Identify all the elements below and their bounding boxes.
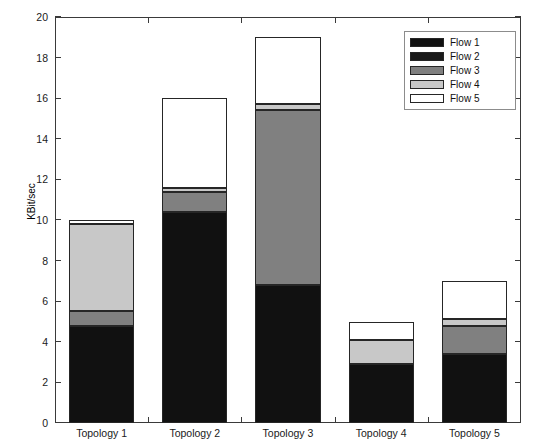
x-axis-tick-mark — [148, 417, 149, 423]
chart-legend: Flow 1Flow 2Flow 3Flow 4Flow 5 — [404, 31, 516, 110]
legend-swatch-icon — [410, 52, 444, 61]
y-axis-tick-mark-right — [515, 260, 521, 261]
y-axis-tick-mark — [55, 138, 61, 139]
legend-swatch-icon — [410, 80, 444, 89]
x-axis-tick-mark-top — [148, 17, 149, 23]
x-axis-tick-mark-top — [241, 17, 242, 23]
y-axis-tick-label: 6 — [18, 296, 48, 307]
y-axis-tick-mark-right — [515, 341, 521, 342]
bar-segment-flow-5[interactable] — [255, 37, 320, 104]
bar-segment-flow-3[interactable] — [255, 110, 320, 285]
legend-entry: Flow 2 — [410, 50, 510, 63]
y-axis-tick-mark — [55, 179, 61, 180]
x-axis-tick-mark-top — [335, 17, 336, 23]
x-axis-tick-mark-top — [428, 17, 429, 23]
y-axis-tick-mark-right — [515, 16, 521, 17]
legend-entry: Flow 4 — [410, 78, 510, 91]
x-axis-category-label: Topology 3 — [238, 428, 338, 439]
stacked-bar[interactable] — [162, 17, 227, 423]
y-axis-tick-label: 16 — [18, 93, 48, 104]
y-axis-tick-mark — [55, 382, 61, 383]
x-axis-category-label: Topology 2 — [145, 428, 245, 439]
y-axis-tick-mark — [55, 422, 61, 423]
y-axis-tick-label: 8 — [18, 256, 48, 267]
x-axis-category-label: Topology 1 — [52, 428, 152, 439]
bar-segment-flow-5[interactable] — [442, 281, 507, 320]
legend-label: Flow 2 — [450, 52, 479, 62]
y-axis-tick-mark — [55, 16, 61, 17]
y-axis-tick-mark-right — [515, 179, 521, 180]
legend-entry: Flow 5 — [410, 92, 510, 105]
bar-segment-flow-3[interactable] — [69, 311, 134, 325]
y-axis-tick-mark-right — [515, 138, 521, 139]
y-axis-tick-mark — [55, 341, 61, 342]
chart-figure: KBit/sec 02468101214161820 Topology 1Top… — [0, 0, 535, 443]
bar-segment-flow-5[interactable] — [349, 322, 414, 340]
stacked-bar[interactable] — [255, 17, 320, 423]
y-axis-tick-mark — [55, 301, 61, 302]
y-axis-tick-label: 4 — [18, 337, 48, 348]
x-axis-tick-mark — [335, 417, 336, 423]
y-axis-tick-label: 18 — [18, 53, 48, 64]
legend-swatch-icon — [410, 38, 444, 47]
y-axis-tick-mark-right — [515, 219, 521, 220]
x-axis-category-label: Topology 4 — [331, 428, 431, 439]
legend-label: Flow 3 — [450, 66, 479, 76]
x-axis-category-label: Topology 5 — [424, 428, 524, 439]
bar-segment-flow-3[interactable] — [162, 192, 227, 212]
bar-segment-flow-1[interactable] — [442, 354, 507, 423]
y-axis-tick-mark — [55, 98, 61, 99]
legend-entry: Flow 3 — [410, 64, 510, 77]
y-axis-tick-mark-right — [515, 301, 521, 302]
bar-segment-flow-4[interactable] — [442, 319, 507, 325]
bar-segment-flow-1[interactable] — [69, 326, 134, 423]
legend-label: Flow 4 — [450, 80, 479, 90]
bar-segment-flow-5[interactable] — [69, 220, 134, 224]
stacked-bar[interactable] — [69, 17, 134, 423]
bar-segment-flow-1[interactable] — [162, 212, 227, 423]
bar-segment-flow-1[interactable] — [255, 285, 320, 423]
x-axis-tick-mark — [428, 417, 429, 423]
y-axis-tick-label: 20 — [18, 12, 48, 23]
legend-label: Flow 1 — [450, 38, 479, 48]
y-axis-tick-label: 2 — [18, 377, 48, 388]
y-axis-tick-mark — [55, 57, 61, 58]
y-axis-tick-label: 10 — [18, 215, 48, 226]
legend-swatch-icon — [410, 66, 444, 75]
x-axis-tick-mark — [241, 417, 242, 423]
legend-label: Flow 5 — [450, 94, 479, 104]
y-axis-tick-mark — [55, 219, 61, 220]
y-axis-tick-label: 12 — [18, 174, 48, 185]
bar-segment-flow-4[interactable] — [349, 340, 414, 364]
bar-segment-flow-5[interactable] — [162, 98, 227, 187]
legend-swatch-icon — [410, 94, 444, 103]
y-axis-tick-label: 14 — [18, 134, 48, 145]
bar-segment-flow-4[interactable] — [255, 104, 320, 110]
bar-segment-flow-3[interactable] — [442, 326, 507, 354]
bar-segment-flow-1[interactable] — [349, 364, 414, 423]
y-axis-tick-mark-right — [515, 422, 521, 423]
bar-segment-flow-4[interactable] — [69, 224, 134, 311]
legend-entry: Flow 1 — [410, 36, 510, 49]
y-axis-tick-label: 0 — [18, 418, 48, 429]
y-axis-tick-mark-right — [515, 382, 521, 383]
y-axis-tick-mark — [55, 260, 61, 261]
bar-segment-flow-4[interactable] — [162, 188, 227, 192]
